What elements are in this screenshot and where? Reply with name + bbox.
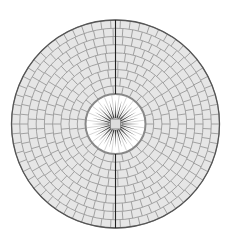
rose-center-square: [111, 119, 121, 129]
paving-diagram: [0, 0, 228, 238]
